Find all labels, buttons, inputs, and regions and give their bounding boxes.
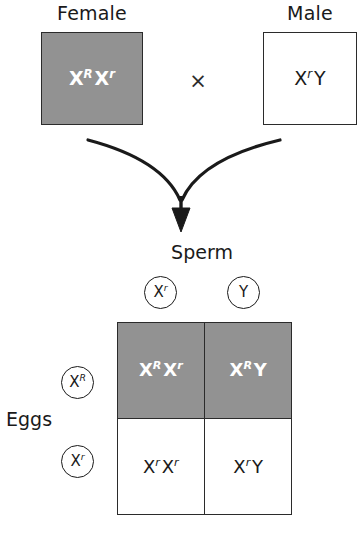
punnett-cell-text-row0-col1: XRY [230, 361, 267, 379]
punnett-cell-text-row0-col0: XRXr [139, 361, 183, 379]
sperm-gamete-text-1: Xr [153, 285, 167, 300]
punnett-cell-row1-col0: XrXr [118, 419, 204, 514]
punnett-cell-text-row1-col0: XrXr [143, 458, 179, 476]
punnett-cell-row0-col1: XRY [205, 323, 291, 418]
egg-gamete-text-1: XR [69, 375, 86, 390]
eggs-axis-title: Eggs [6, 408, 62, 430]
sperm-gamete-circle-1: Xr [144, 276, 177, 309]
egg-gamete-circle-1: XR [61, 366, 94, 399]
punnett-diagram: Female Male XRXr XrY × Sperm Xr Y [0, 0, 361, 535]
punnett-cell-row1-col1: XrY [205, 419, 291, 514]
punnett-cell-text-row1-col1: XrY [233, 458, 263, 476]
egg-gamete-circle-2: Xr [61, 445, 94, 478]
sperm-gamete-circle-2: Y [227, 276, 260, 309]
punnett-square-grid: XRXr XRY XrXr XrY [117, 322, 292, 515]
sperm-axis-title: Sperm [152, 241, 252, 263]
punnett-cell-row0-col0: XRXr [118, 323, 204, 418]
sperm-gamete-text-2: Y [239, 285, 248, 300]
egg-gamete-text-2: Xr [70, 454, 84, 469]
